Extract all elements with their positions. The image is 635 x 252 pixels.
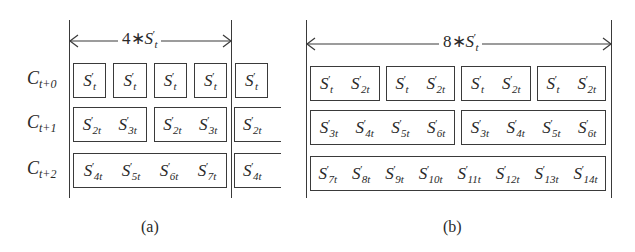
symbol: S′t	[83, 70, 96, 92]
symbol: S′3t	[118, 114, 136, 136]
symbol: S′9t	[385, 163, 403, 185]
symbol: S′t	[320, 73, 333, 95]
span-coef: 4	[122, 29, 131, 48]
symbol: S′3t	[199, 114, 217, 136]
row-label-sub: t+2	[39, 167, 56, 181]
row-label-base: C	[27, 158, 39, 178]
symbol: S′5t	[391, 117, 409, 139]
symbol: S′t	[245, 70, 258, 92]
symbol: S′6t	[578, 117, 596, 139]
symbol: S′3t	[320, 117, 338, 139]
span-sub: t	[475, 41, 478, 53]
symbol: S′t	[123, 70, 136, 92]
symbol: S′2t	[83, 114, 101, 136]
memory-block: S′tS′2t	[386, 66, 456, 101]
memory-block: S′4tS′5tS′6tS′7t	[73, 153, 227, 188]
symbol: S′5t	[542, 117, 560, 139]
symbol: S′2t	[243, 114, 261, 136]
symbol: S′2t	[163, 114, 181, 136]
symbol: S′2t	[578, 73, 596, 95]
memory-block: S′tS′2t	[461, 66, 531, 101]
symbol: S′2t	[502, 73, 520, 95]
symbol: S′6t	[160, 160, 178, 182]
span-op: ∗	[452, 32, 466, 51]
span-sub: t	[154, 38, 157, 50]
symbol: S′5t	[122, 160, 140, 182]
overflow-block: S′t	[235, 63, 268, 98]
row-label-base: C	[27, 68, 39, 88]
symbol: S′6t	[427, 117, 445, 139]
panel-b-caption: (b)	[443, 218, 462, 236]
symbol: S′10t	[419, 163, 443, 185]
panel-a-span-label: 4∗S′t	[118, 28, 161, 50]
row-label-sub: t+1	[39, 121, 56, 135]
symbol: S′14t	[574, 163, 598, 185]
symbol: S′8t	[352, 163, 370, 185]
overflow-block: S′2t	[234, 107, 281, 142]
memory-block: S′t	[154, 63, 187, 98]
span-op: ∗	[131, 29, 145, 48]
row-label-base: C	[27, 112, 39, 132]
span-coef: 8	[443, 32, 452, 51]
symbol: S′t	[164, 70, 177, 92]
row-label-sub: t+0	[39, 77, 56, 91]
panel-b-span-label: 8∗S′t	[439, 31, 482, 53]
symbol: S′7t	[318, 163, 336, 185]
memory-block: S′3tS′4tS′5tS′6t	[310, 110, 455, 145]
memory-block: S′t	[194, 63, 227, 98]
memory-block: S′t	[113, 63, 146, 98]
symbol: S′t	[204, 70, 217, 92]
overflow-block: S′4t	[234, 153, 281, 188]
symbol: S′13t	[535, 163, 559, 185]
symbol: S′4t	[243, 160, 261, 182]
row-label-c-t1: Ct+1	[27, 112, 56, 136]
symbol: S′4t	[355, 117, 373, 139]
memory-block: S′7tS′8tS′9tS′10tS′11tS′12tS′13tS′14t	[310, 156, 606, 191]
symbol: S′12t	[496, 163, 520, 185]
panel-a-caption: (a)	[141, 218, 159, 236]
symbol: S′t	[396, 73, 409, 95]
symbol: S′11t	[458, 163, 481, 185]
row-label-c-t0: Ct+0	[27, 68, 56, 92]
symbol: S′2t	[427, 73, 445, 95]
memory-block: S′3tS′4tS′5tS′6t	[461, 110, 606, 145]
symbol: S′7t	[198, 160, 216, 182]
symbol: S′4t	[506, 117, 524, 139]
symbol: S′2t	[351, 73, 369, 95]
memory-block: S′2tS′3t	[73, 107, 147, 142]
symbol: S′3t	[471, 117, 489, 139]
symbol: S′t	[471, 73, 484, 95]
row-label-c-t2: Ct+2	[27, 158, 56, 182]
memory-block: S′tS′2t	[537, 66, 607, 101]
memory-block: S′2tS′3t	[154, 107, 228, 142]
symbol: S′4t	[84, 160, 102, 182]
memory-block: S′t	[73, 63, 106, 98]
memory-block: S′tS′2t	[310, 66, 380, 101]
symbol: S′t	[547, 73, 560, 95]
